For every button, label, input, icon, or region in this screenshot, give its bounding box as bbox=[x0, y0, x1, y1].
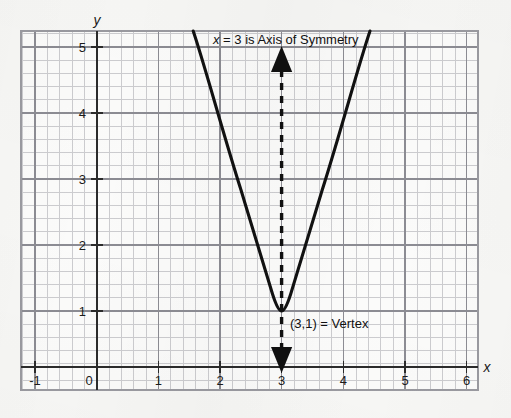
x-tick-label: 4 bbox=[340, 373, 347, 388]
axis-of-symmetry-annotation: x = 3 is Axis of Symmetry bbox=[212, 32, 359, 47]
y-axis-label: y bbox=[93, 12, 102, 28]
x-tick-label: 2 bbox=[216, 373, 223, 388]
x-axis-label: x bbox=[483, 359, 492, 375]
y-tick-label: 2 bbox=[79, 238, 86, 253]
axis-of-symmetry-annotation-text: = 3 is Axis of Symmetry bbox=[220, 32, 360, 47]
graph-canvas: -1 0 1 2 3 4 5 6 1 2 3 4 5 x y bbox=[0, 0, 511, 418]
x-tick-label: 1 bbox=[155, 373, 162, 388]
x-tick-label: 3 bbox=[278, 373, 285, 388]
y-tick-label: 1 bbox=[79, 304, 86, 319]
x-tick-label: 6 bbox=[463, 373, 470, 388]
plot-area-background bbox=[21, 31, 478, 390]
y-tick-label: 4 bbox=[79, 106, 86, 121]
vertex-annotation: (3,1) = Vertex bbox=[290, 316, 369, 331]
x-tick-label: 5 bbox=[401, 373, 408, 388]
x-tick-label: 0 bbox=[85, 373, 92, 388]
x-tick-label: -1 bbox=[29, 373, 41, 388]
y-tick-label: 3 bbox=[79, 172, 86, 187]
parabola-graph-figure: -1 0 1 2 3 4 5 6 1 2 3 4 5 x y bbox=[0, 0, 511, 418]
y-tick-label: 5 bbox=[79, 40, 86, 55]
